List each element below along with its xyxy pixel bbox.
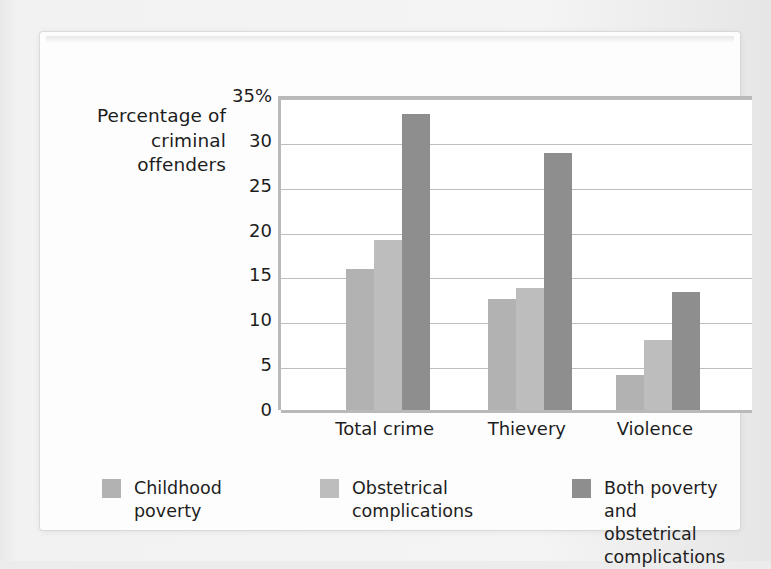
bar[interactable] xyxy=(346,269,374,410)
bar-group xyxy=(616,99,700,410)
chart-card: Percentage of criminal offenders 0510152… xyxy=(40,32,740,530)
bars-layer xyxy=(281,99,752,410)
legend-item-both-poverty-and-obstetrical-complications[interactable]: Both poverty and obstetrical complicatio… xyxy=(572,477,752,569)
bar-chart: Percentage of criminal offenders 0510152… xyxy=(40,32,740,530)
bar-group xyxy=(346,99,430,410)
y-axis-tick-label: 25 xyxy=(249,175,272,196)
legend-item-obstetrical-complications[interactable]: Obstetrical complications xyxy=(320,477,473,523)
x-axis-tick-label: Total crime xyxy=(335,418,434,439)
bar[interactable] xyxy=(402,114,430,410)
y-axis-tick-label: 30 xyxy=(249,130,272,151)
y-axis-tick-label: 0 xyxy=(261,399,272,420)
y-axis-tick-label: 15 xyxy=(249,265,272,286)
bar[interactable] xyxy=(374,240,402,410)
bar[interactable] xyxy=(516,288,544,410)
bar[interactable] xyxy=(644,340,672,410)
x-axis-tick-labels: Total crimeThieveryViolence xyxy=(278,418,752,448)
bar[interactable] xyxy=(616,375,644,410)
y-axis-tick-label: 20 xyxy=(249,220,272,241)
chart-legend: Childhood poverty Obstetrical complicati… xyxy=(102,477,752,539)
gridline xyxy=(281,410,752,413)
bar[interactable] xyxy=(544,153,572,410)
plot-area xyxy=(278,96,752,410)
legend-swatch-icon xyxy=(102,479,121,498)
legend-item-label: Childhood poverty xyxy=(134,477,222,523)
x-axis-tick-label: Thievery xyxy=(488,418,566,439)
legend-item-label: Obstetrical complications xyxy=(352,477,473,523)
y-axis-tick-label: 5 xyxy=(261,354,272,375)
x-axis-tick-label: Violence xyxy=(617,418,693,439)
bar[interactable] xyxy=(672,292,700,410)
y-axis-tick-label: 35% xyxy=(232,85,272,106)
bar[interactable] xyxy=(488,299,516,410)
y-axis-tick-label: 10 xyxy=(249,309,272,330)
legend-item-childhood-poverty[interactable]: Childhood poverty xyxy=(102,477,222,523)
bar-group xyxy=(488,99,572,410)
y-axis-title: Percentage of criminal offenders xyxy=(66,104,226,178)
y-axis-tick-labels: 05101520253035% xyxy=(222,96,272,410)
legend-swatch-icon xyxy=(572,479,591,498)
legend-item-label: Both poverty and obstetrical complicatio… xyxy=(604,477,752,569)
legend-swatch-icon xyxy=(320,479,339,498)
